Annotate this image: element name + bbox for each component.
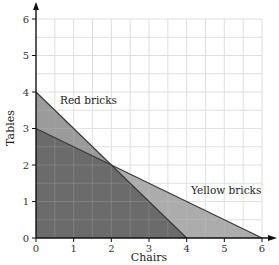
x-tick-label: 1 [70,243,76,254]
x-axis-arrow-icon [268,235,277,241]
y-tick-label: 1 [23,196,29,207]
y-tick-label: 3 [23,123,29,134]
x-tick-label: 2 [108,243,114,254]
x-axis-label: Chairs [131,251,168,264]
x-tick-label: 5 [221,243,227,254]
y-tick-label: 2 [23,160,29,171]
annotation-red-bricks: Red bricks [60,94,117,106]
annotation-yellow-bricks: Yellow bricks [190,184,261,196]
y-axis-arrow-icon [33,2,39,10]
y-tick-label: 5 [23,50,29,61]
y-tick-label: 0 [23,233,29,244]
feasible-region-chart: 01234560123456 Chairs Tables Red bricks … [0,0,279,265]
x-tick-label: 0 [33,243,39,254]
x-tick-label: 6 [259,243,265,254]
y-tick-label: 6 [23,14,29,25]
y-tick-label: 4 [23,87,29,98]
y-axis-label: Tables [4,110,17,146]
x-tick-label: 4 [183,243,189,254]
shaded-regions [36,92,262,238]
